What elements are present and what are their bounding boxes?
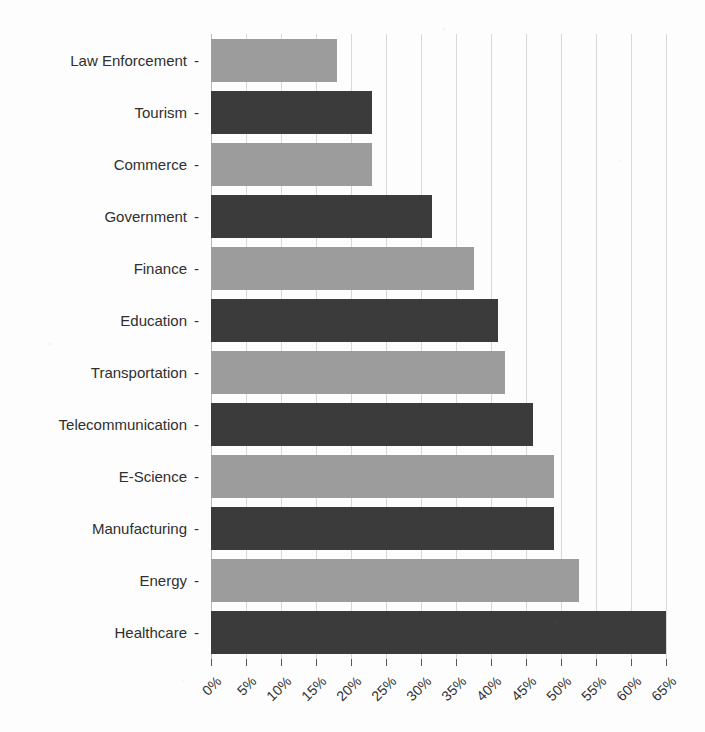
y-axis-label-finance: Finance <box>134 247 187 290</box>
plot-area <box>211 34 666 659</box>
x-axis-tick-mark <box>281 659 282 666</box>
y-axis-tick-mark: - <box>194 455 199 498</box>
x-axis-tick-mark <box>316 659 317 666</box>
y-axis-label-telecommunication: Telecommunication <box>59 403 187 446</box>
x-axis-tick-mark <box>456 659 457 666</box>
y-axis-label-healthcare: Healthcare <box>114 611 187 654</box>
y-axis-label-transportation: Transportation <box>91 351 187 394</box>
y-axis-tick-mark: - <box>194 91 199 134</box>
bar-law-enforcement <box>211 39 337 82</box>
y-axis-tick-mark: - <box>194 299 199 342</box>
bar-commerce <box>211 143 372 186</box>
bar-energy <box>211 559 579 602</box>
y-axis-tick-mark: - <box>194 195 199 238</box>
y-axis-tick-mark: - <box>194 507 199 550</box>
bar-education <box>211 299 498 342</box>
y-axis-tick-mark: - <box>194 403 199 446</box>
bar-telecommunication <box>211 403 533 446</box>
y-axis-label-tourism: Tourism <box>134 91 187 134</box>
x-axis-tick-mark <box>631 659 632 666</box>
y-axis-tick-mark: - <box>194 351 199 394</box>
bar-finance <box>211 247 474 290</box>
x-axis-tick-mark <box>211 659 212 666</box>
bar-manufacturing <box>211 507 554 550</box>
y-axis-label-commerce: Commerce <box>114 143 187 186</box>
bar-government <box>211 195 432 238</box>
x-axis-tick-mark <box>526 659 527 666</box>
gridline-65pct <box>666 34 667 659</box>
y-axis-tick-mark: - <box>194 247 199 290</box>
x-axis-tick-mark <box>386 659 387 666</box>
y-axis-label-e-science: E-Science <box>119 455 187 498</box>
bars-layer <box>211 34 666 659</box>
y-axis-label-energy: Energy <box>139 559 187 602</box>
y-axis-label-education: Education <box>120 299 187 342</box>
y-axis-label-law-enforcement: Law Enforcement <box>70 39 187 82</box>
x-axis-tick-mark <box>561 659 562 666</box>
y-axis-tick-mark: - <box>194 143 199 186</box>
x-axis-tick-mark <box>421 659 422 666</box>
x-axis: 0%5%10%15%20%25%30%35%40%45%50%55%60%65% <box>211 659 666 729</box>
bar-transportation <box>211 351 505 394</box>
y-axis-label-manufacturing: Manufacturing <box>92 507 187 550</box>
x-axis-tick-mark <box>666 659 667 666</box>
x-axis-tick-mark <box>351 659 352 666</box>
x-axis-tick-mark <box>596 659 597 666</box>
x-axis-tick-mark <box>246 659 247 666</box>
bar-healthcare <box>211 611 666 654</box>
x-axis-tick-mark <box>491 659 492 666</box>
bar-chart: Law Enforcement-Tourism-Commerce-Governm… <box>0 0 705 732</box>
bar-e-science <box>211 455 554 498</box>
y-axis-label-government: Government <box>104 195 187 238</box>
bar-tourism <box>211 91 372 134</box>
y-axis-tick-mark: - <box>194 39 199 82</box>
y-axis-tick-mark: - <box>194 611 199 654</box>
y-axis-tick-mark: - <box>194 559 199 602</box>
y-axis-labels: Law Enforcement-Tourism-Commerce-Governm… <box>0 34 205 659</box>
